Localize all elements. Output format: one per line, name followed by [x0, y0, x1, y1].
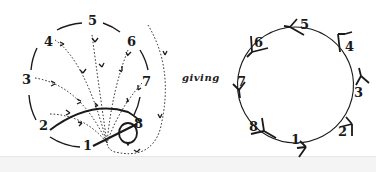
right-label-8: 8 [249, 119, 258, 134]
figure: 5 4 6 3 7 2 8 1 giving 1 2 3 4 5 6 7 8 [0, 0, 376, 172]
dotted-paths [35, 25, 165, 154]
left-label-7: 7 [142, 74, 151, 89]
right-label-5: 5 [300, 17, 309, 32]
left-label-1: 1 [83, 138, 92, 153]
solid-curve [50, 109, 140, 130]
left-label-2: 2 [39, 118, 48, 133]
left-label-5: 5 [88, 13, 97, 28]
connector-text: giving [182, 72, 220, 83]
right-label-4: 4 [345, 39, 354, 54]
right-labels: 1 2 3 4 5 6 7 8 [237, 17, 363, 147]
right-label-7: 7 [237, 74, 246, 89]
right-label-2: 2 [338, 124, 347, 139]
left-label-6: 6 [127, 34, 136, 49]
left-labels: 5 4 6 3 7 2 8 1 [22, 13, 151, 153]
left-label-4: 4 [44, 34, 53, 49]
left-label-8: 8 [134, 116, 143, 131]
left-label-3: 3 [22, 72, 31, 87]
right-label-6: 6 [254, 35, 263, 50]
right-label-1: 1 [291, 132, 300, 147]
right-label-3: 3 [354, 85, 363, 100]
arrow-ticks [51, 38, 167, 152]
